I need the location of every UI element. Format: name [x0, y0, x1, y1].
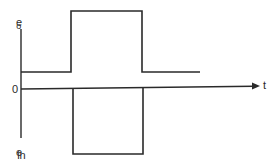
output-label-sub: o [16, 21, 21, 31]
output-voltage-label: eo [16, 13, 21, 29]
pulse-waveform-diagram [0, 0, 279, 166]
origin-label: 0 [12, 84, 18, 95]
output-pulse-waveform [21, 11, 200, 72]
input-label-sub: in [17, 149, 26, 161]
input-pulse-waveform [73, 88, 143, 154]
time-axis-arrow-icon [252, 83, 260, 90]
time-axis-label: t [263, 80, 266, 91]
time-axis [21, 86, 254, 89]
input-voltage-label: ein [16, 143, 26, 159]
